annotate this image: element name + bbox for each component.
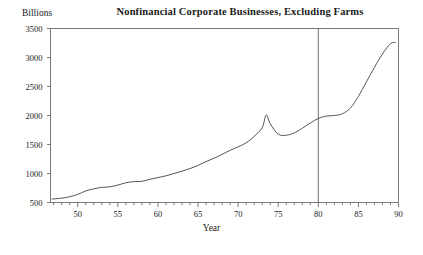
data-series <box>52 42 395 199</box>
x-tick-label: 90 <box>387 209 411 219</box>
y-tick-label: 2500 <box>9 82 43 92</box>
y-tick-label: 1000 <box>9 169 43 179</box>
x-tick-label: 70 <box>226 209 250 219</box>
y-tick-label: 2000 <box>9 111 43 121</box>
y-tick-label: 500 <box>9 198 43 208</box>
y-tick-label: 3500 <box>9 24 43 34</box>
x-tick-label: 80 <box>306 209 330 219</box>
x-tick-label: 65 <box>186 209 210 219</box>
x-tick-label: 60 <box>146 209 170 219</box>
x-tick-label: 85 <box>346 209 370 219</box>
plot-frame <box>51 29 399 203</box>
x-tick-label: 75 <box>266 209 290 219</box>
y-tick-label: 3000 <box>9 53 43 63</box>
x-tick-label: 55 <box>106 209 130 219</box>
y-tick-label: 1500 <box>9 140 43 150</box>
x-tick-label: 50 <box>66 209 90 219</box>
chart-figure: Nonfinancial Corporate Businesses, Exclu… <box>0 0 423 255</box>
axis-ticks <box>47 29 399 208</box>
